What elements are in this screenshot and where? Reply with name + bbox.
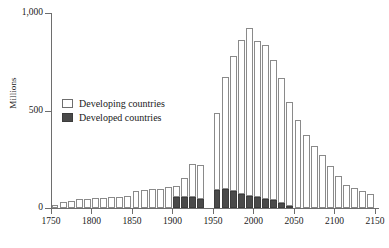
bar-group bbox=[335, 176, 342, 208]
bar-segment-developing bbox=[359, 191, 366, 208]
bar-segment-developing bbox=[197, 165, 204, 199]
bar-segment-developing bbox=[222, 77, 229, 189]
y-tick-label: 0 bbox=[38, 203, 43, 213]
bar-group bbox=[270, 60, 277, 208]
bar-segment-developed bbox=[197, 199, 204, 208]
x-tick-mark bbox=[91, 209, 92, 214]
bar-segment-developed bbox=[181, 197, 188, 208]
bar-group bbox=[367, 194, 374, 208]
bar-group bbox=[222, 77, 229, 208]
chart-legend: Developing countries Developed countries bbox=[62, 97, 165, 125]
x-tick-label: 2100 bbox=[314, 217, 354, 227]
bar-segment-developing bbox=[165, 187, 172, 208]
bar-group bbox=[286, 102, 293, 208]
x-tick-label: 2150 bbox=[355, 217, 389, 227]
bar-segment-developing bbox=[351, 188, 358, 208]
bar-group bbox=[173, 186, 180, 208]
bar-segment-developed bbox=[286, 206, 293, 208]
bar-group bbox=[116, 197, 123, 208]
x-tick-label: 1900 bbox=[152, 217, 192, 227]
x-tick-label: 1950 bbox=[193, 217, 233, 227]
x-tick-mark bbox=[334, 209, 335, 214]
bar-group bbox=[84, 199, 91, 208]
bar-group bbox=[327, 166, 334, 208]
bar-segment-developed bbox=[254, 197, 261, 208]
bar-segment-developing bbox=[173, 186, 180, 197]
x-tick-mark bbox=[294, 209, 295, 214]
bar-segment-developing bbox=[230, 56, 237, 191]
x-tick-label: 1800 bbox=[71, 217, 111, 227]
bar-group bbox=[311, 146, 318, 208]
bar-group bbox=[278, 78, 285, 208]
bar-segment-developing bbox=[189, 164, 196, 197]
bar-segment-developing bbox=[343, 185, 350, 208]
x-tick-label: 1850 bbox=[112, 217, 152, 227]
bar-group bbox=[246, 28, 253, 208]
bar-segment-developing bbox=[181, 178, 188, 197]
legend-swatch-developing-icon bbox=[62, 99, 73, 108]
bar-group bbox=[238, 40, 245, 208]
legend-label-developed: Developed countries bbox=[79, 113, 161, 123]
bar-segment-developing bbox=[335, 176, 342, 208]
bar-group bbox=[351, 188, 358, 208]
bar-segment-developing bbox=[52, 205, 59, 209]
bar-group bbox=[262, 45, 269, 208]
population-increment-chart: Millions 05001,000 175018001850190019502… bbox=[0, 0, 389, 248]
bar-segment-developed bbox=[173, 197, 180, 208]
legend-item-developed: Developed countries bbox=[62, 111, 165, 124]
bar-group bbox=[157, 189, 164, 209]
x-tick-mark bbox=[172, 209, 173, 214]
x-tick-label: 1750 bbox=[31, 217, 71, 227]
bar-group bbox=[133, 191, 140, 208]
bar-group bbox=[189, 164, 196, 208]
bar-segment-developing bbox=[286, 102, 293, 205]
legend-label-developing: Developing countries bbox=[79, 99, 165, 109]
bar-group bbox=[92, 198, 99, 208]
bar-segment-developed bbox=[222, 189, 229, 208]
bar-segment-developed bbox=[238, 194, 245, 208]
bar-segment-developing bbox=[133, 191, 140, 208]
bar-group bbox=[149, 189, 156, 208]
bar-segment-developing bbox=[92, 198, 99, 208]
bar-segment-developing bbox=[270, 60, 277, 200]
bar-segment-developing bbox=[84, 199, 91, 208]
bar-segment-developing bbox=[214, 113, 221, 191]
bar-segment-developing bbox=[262, 45, 269, 199]
bar-segment-developing bbox=[108, 197, 115, 208]
bar-segment-developed bbox=[262, 199, 269, 208]
x-tick-mark bbox=[375, 209, 376, 214]
bar-group bbox=[359, 191, 366, 208]
bar-group bbox=[165, 187, 172, 208]
bar-segment-developing bbox=[319, 155, 326, 208]
bar-group bbox=[343, 185, 350, 208]
bar-group bbox=[230, 56, 237, 208]
bar-group bbox=[181, 178, 188, 208]
x-tick-mark bbox=[132, 209, 133, 214]
bar-segment-developing bbox=[303, 135, 310, 208]
bar-group bbox=[295, 120, 302, 208]
bar-segment-developed bbox=[246, 196, 253, 208]
bar-segment-developing bbox=[327, 166, 334, 208]
y-axis-title: Millions bbox=[8, 58, 18, 128]
bar-segment-developing bbox=[149, 189, 156, 208]
bar-group bbox=[60, 202, 67, 208]
bar-group bbox=[197, 165, 204, 208]
bar-group bbox=[254, 41, 261, 208]
bar-segment-developing bbox=[60, 202, 67, 208]
x-tick-mark bbox=[253, 209, 254, 214]
y-tick-label: 1,000 bbox=[22, 8, 43, 18]
bar-segment-developed bbox=[270, 200, 277, 208]
bar-segment-developing bbox=[367, 194, 374, 208]
bar-segment-developed bbox=[214, 190, 221, 208]
bar-group bbox=[303, 135, 310, 208]
bar-segment-developing bbox=[124, 196, 131, 208]
bar-segment-developing bbox=[254, 41, 261, 197]
x-tick-mark bbox=[213, 209, 214, 214]
bar-group bbox=[141, 190, 148, 208]
legend-item-developing: Developing countries bbox=[62, 97, 165, 110]
bar-segment-developing bbox=[116, 197, 123, 208]
bar-group bbox=[52, 205, 59, 209]
bar-segment-developed bbox=[189, 197, 196, 208]
bar-segment-developing bbox=[76, 199, 83, 208]
bar-segment-developing bbox=[311, 146, 318, 208]
